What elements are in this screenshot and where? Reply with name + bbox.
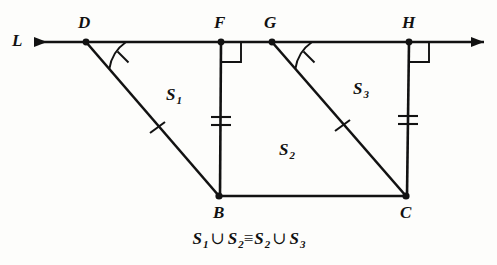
angle-tick-D	[118, 52, 129, 63]
caption-s2b-letter: S	[254, 229, 263, 248]
region-letter-S3: S	[353, 79, 362, 98]
region-subscript-S1: 1	[176, 94, 182, 106]
vertex-label-D: D	[78, 14, 90, 31]
vertex-label-H: H	[402, 14, 415, 31]
region-label-S1: S1	[166, 86, 181, 103]
caption-congruent: ≡	[243, 229, 255, 248]
segment-HC	[407, 42, 409, 196]
vertex-label-C: C	[400, 204, 411, 221]
caption-union-2: ∪	[269, 229, 289, 248]
region-letter-S1: S	[166, 85, 175, 104]
caption-s1-sub: 1	[203, 238, 209, 250]
right-angle-marker-F	[221, 42, 241, 62]
vertex-label-B: B	[213, 204, 224, 221]
vertex-label-F: F	[214, 14, 225, 31]
vertex-dot-C	[402, 192, 409, 199]
region-subscript-S2: 2	[289, 149, 295, 161]
region-label-S3: S3	[353, 80, 368, 97]
region-label-S2: S2	[279, 141, 294, 158]
geometry-canvas	[0, 0, 497, 265]
caption-s2-letter: S	[228, 229, 237, 248]
geometry-figure: L D F G H B C S1 S2 S3 S1∪S2≡S2∪S3	[0, 0, 497, 265]
caption-s3-letter: S	[290, 229, 299, 248]
caption-s2b-sub: 2	[265, 238, 271, 250]
caption-s1-letter: S	[193, 229, 202, 248]
vertex-dot-G	[269, 39, 276, 46]
segment-DB	[86, 42, 219, 196]
segment-FB	[220, 42, 221, 196]
right-angle-marker-H	[409, 42, 429, 62]
caption-union-1: ∪	[207, 229, 227, 248]
vertex-dot-D	[83, 39, 90, 46]
caption-equation: S1∪S2≡S2∪S3	[0, 228, 497, 249]
segment-GC	[272, 42, 406, 196]
vertex-label-G: G	[264, 14, 276, 31]
caption-s3-sub: 3	[300, 238, 306, 250]
angle-tick-G	[304, 52, 315, 63]
region-subscript-S3: 3	[363, 88, 369, 100]
caption-s2-sub: 2	[238, 238, 244, 250]
line-label-L: L	[12, 32, 22, 49]
vertex-dot-F	[218, 39, 225, 46]
angle-arc-D	[109, 42, 126, 69]
vertex-dot-H	[406, 39, 413, 46]
region-letter-S2: S	[279, 140, 288, 159]
vertex-dot-B	[215, 192, 222, 199]
angle-arc-G	[295, 42, 312, 69]
